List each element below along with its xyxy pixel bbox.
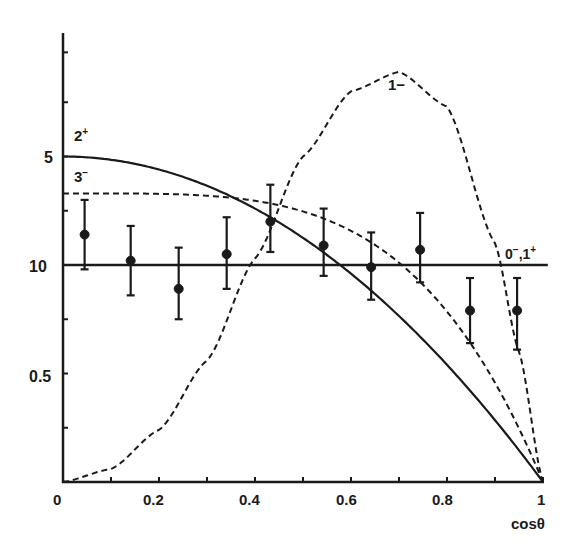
- data-point: [222, 217, 231, 289]
- x-tick-label: 0.2: [143, 491, 164, 508]
- data-marker: [319, 241, 328, 250]
- data-marker: [266, 217, 275, 226]
- y-tick-labels: 5 10 0.5: [29, 149, 53, 385]
- x-tick-labels: 0 0.2 0.4 0.6 0.8 1: [53, 491, 545, 508]
- data-marker: [513, 306, 522, 315]
- data-marker: [80, 230, 89, 239]
- curve-label-1minus: 1−: [388, 76, 405, 93]
- data-marker: [367, 263, 376, 272]
- y-tick-label: 5: [44, 149, 53, 166]
- curves: [63, 72, 548, 482]
- x-tick-label: 0: [53, 491, 61, 508]
- curve-label-0minus-1plus: 0−,1+: [505, 244, 536, 262]
- curve-label-2plus: 2+: [74, 126, 88, 144]
- data-point: [367, 232, 376, 299]
- data-point: [466, 278, 475, 343]
- data-point: [416, 213, 425, 282]
- data-point: [80, 200, 89, 269]
- data-point: [513, 278, 522, 350]
- y-tick-label: 0.5: [29, 368, 51, 385]
- x-tick-label: 0.4: [239, 491, 261, 508]
- x-tick-label: 1: [537, 491, 545, 508]
- y-tick-label: 10: [29, 258, 47, 275]
- x-axis-label: cosθ: [511, 515, 545, 532]
- curve-label-3minus: 3−: [74, 167, 88, 185]
- data-marker: [416, 245, 425, 254]
- data-points: [80, 185, 521, 350]
- data-marker: [174, 284, 183, 293]
- angular-distribution-chart: 0 0.2 0.4 0.6 0.8 1 cosθ 5 10 0.5 2+ 3− …: [0, 0, 571, 555]
- x-tick-label: 0.8: [432, 491, 453, 508]
- data-marker: [126, 256, 135, 265]
- data-marker: [466, 306, 475, 315]
- x-tick-label: 0.6: [336, 491, 357, 508]
- data-marker: [222, 250, 231, 259]
- data-point: [174, 248, 183, 320]
- data-point: [266, 185, 275, 252]
- data-point: [126, 226, 135, 295]
